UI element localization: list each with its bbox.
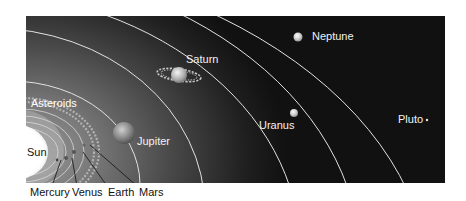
sun-label: Sun (27, 147, 47, 158)
solar-system-diagram: Saturn Neptune Uranus Pluto Jupiter Aste… (0, 0, 466, 201)
uranus-icon (290, 109, 298, 117)
venus-label: Venus (72, 187, 103, 198)
jupiter-label: Jupiter (137, 136, 170, 147)
mercury-label: Mercury (30, 187, 70, 198)
earth-icon (72, 150, 76, 154)
jupiter-icon (113, 122, 135, 144)
mars-label: Mars (139, 187, 163, 198)
saturn-label: Saturn (186, 54, 218, 65)
earth-label: Earth (108, 187, 134, 198)
pluto-label: Pluto (398, 114, 423, 125)
mercury-icon (56, 159, 59, 162)
asteroids-label: Asteroids (31, 98, 77, 109)
uranus-label: Uranus (259, 120, 294, 131)
neptune-label: Neptune (312, 31, 354, 42)
saturn-icon (156, 66, 201, 84)
mars-icon (82, 143, 85, 146)
venus-icon (64, 156, 68, 160)
pluto-icon (426, 119, 428, 121)
neptune-icon (294, 33, 303, 42)
label-pointers (52, 145, 137, 186)
